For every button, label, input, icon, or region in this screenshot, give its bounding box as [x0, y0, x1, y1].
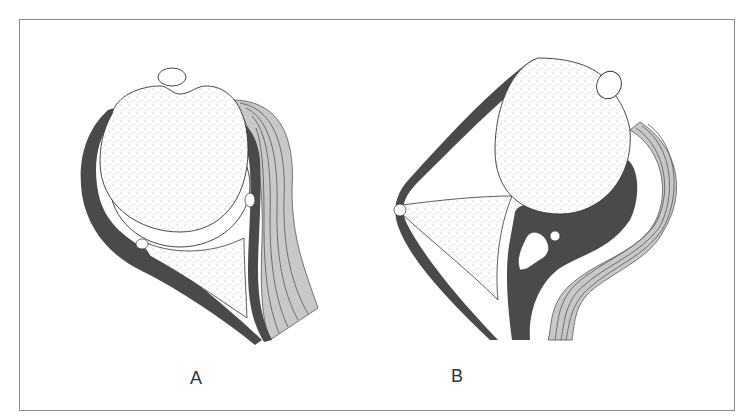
- panel-a: [81, 68, 318, 345]
- bursa-oval-a: [158, 68, 186, 86]
- panel-label-a: A: [190, 368, 202, 389]
- anatomy-diagram: [0, 0, 749, 419]
- panel-label-b: B: [451, 366, 463, 387]
- panel-b: [394, 58, 676, 340]
